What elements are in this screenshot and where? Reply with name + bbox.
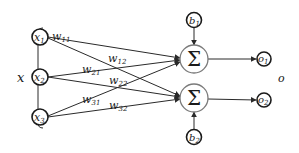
input-group-label: x [17,70,25,85]
weight-labels: w11 w12 w21 w22 w31 w32 [52,30,128,113]
input-node-x2: x2 [32,69,48,85]
bias-node-b1: b1 [187,13,202,29]
neural-network-diagram: x w11 w12 w21 w22 w31 w32 x1 x2 x3 b1 [0,0,299,153]
summation-node-2: Σ [180,84,208,112]
input-node-x1: x1 [32,29,48,45]
weight-label-w22: w22 [109,74,128,88]
weight-label-w32: w32 [109,99,128,113]
output-node-o2: o2 [257,93,271,107]
weight-label-w21: w21 [82,63,100,77]
sigma-icon: Σ [187,47,201,71]
edge-sum2-o2 [208,99,256,100]
weight-label-w11: w11 [52,30,70,44]
weight-label-w31: w31 [82,93,100,107]
input-node-x3: x3 [32,109,48,125]
bias-node-b2: b2 [187,130,202,146]
output-node-o1: o1 [257,52,271,66]
summation-node-1: Σ [180,45,208,73]
sigma-icon: Σ [187,86,201,110]
output-group-label: o [278,72,285,85]
weight-label-w12: w12 [108,52,127,66]
